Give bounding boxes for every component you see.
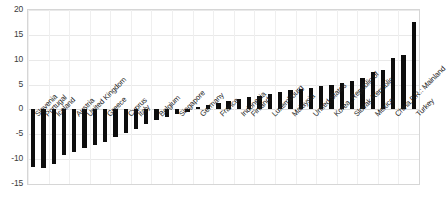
bar [196, 107, 200, 109]
bar [124, 109, 128, 133]
bar [257, 96, 261, 110]
plot-area [27, 9, 420, 185]
bar [391, 58, 395, 110]
bar [41, 109, 45, 168]
bar [309, 88, 313, 110]
bar [144, 109, 148, 124]
bar [216, 103, 220, 109]
y-tick-label: 5 [18, 79, 23, 89]
bar [401, 55, 405, 110]
bar [175, 109, 179, 114]
bar [165, 109, 169, 116]
gridline-horizontal [28, 184, 419, 185]
bar [93, 109, 97, 145]
bar [154, 109, 158, 120]
y-tick-label: 0 [18, 103, 23, 113]
bar [82, 109, 86, 148]
bar [340, 83, 344, 110]
bar [360, 78, 364, 110]
bar [237, 99, 241, 109]
bar [134, 109, 138, 128]
y-tick-label: -15 [11, 178, 23, 188]
bar [381, 70, 385, 110]
y-tick-label: -10 [11, 153, 23, 163]
bar [412, 22, 416, 109]
bar [350, 81, 354, 110]
bar [226, 101, 230, 109]
bar [268, 94, 272, 110]
bar [62, 109, 66, 155]
gridline-vertical [419, 10, 420, 184]
bar [319, 86, 323, 109]
y-axis: 20151050-5-10-15 [0, 0, 26, 204]
y-tick-label: 20 [14, 4, 23, 14]
bar [288, 90, 292, 109]
bar [247, 97, 251, 109]
y-tick-label: -5 [16, 128, 23, 138]
bar [329, 85, 333, 110]
y-tick-label: 10 [14, 54, 23, 64]
bar [72, 109, 76, 151]
bar [103, 109, 107, 141]
bar [113, 109, 117, 137]
bars-series [28, 10, 419, 184]
bar [185, 109, 189, 112]
bar [206, 105, 210, 109]
y-tick-label: 15 [14, 29, 23, 39]
bar [278, 92, 282, 110]
bar [371, 72, 375, 110]
bar [31, 109, 35, 166]
bar [52, 109, 56, 164]
bar [299, 89, 303, 110]
